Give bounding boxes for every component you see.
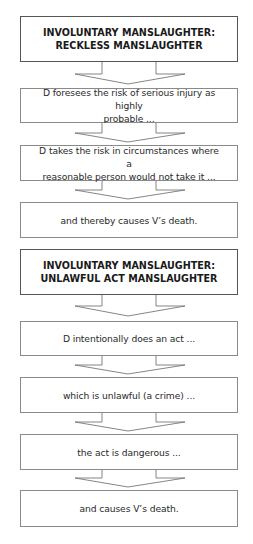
down-arrow-icon: [0, 470, 253, 490]
step-line: the act is dangerous ...: [69, 446, 188, 459]
down-arrow-icon: [0, 62, 253, 88]
step-line: D takes the risk in circumstances where …: [29, 144, 229, 170]
down-arrow-icon: [0, 295, 253, 321]
down-arrow-icon: [0, 123, 253, 145]
step-intentional-act: D intentionally does an act ...: [20, 321, 238, 356]
heading-line: INVOLUNTARY MANSLAUGHTER:: [33, 259, 226, 273]
down-arrow-icon: [0, 181, 253, 202]
heading-unlawful-act-manslaughter: INVOLUNTARY MANSLAUGHTER: UNLAWFUL ACT M…: [20, 249, 238, 295]
down-arrow-icon: [0, 356, 253, 377]
step-foresees-risk: D foresees the risk of serious injury as…: [20, 88, 238, 123]
step-causes-death: and thereby causes V’s death.: [20, 202, 238, 238]
step-line: and causes V’s death.: [71, 502, 186, 515]
heading-line: UNLAWFUL ACT MANSLAUGHTER: [33, 272, 226, 286]
heading-line: RECKLESS MANSLAUGHTER: [35, 39, 223, 53]
step-line: which is unlawful (a crime) ...: [55, 389, 203, 402]
step-dangerous: the act is dangerous ...: [20, 434, 238, 470]
step-line: and thereby causes V’s death.: [53, 214, 206, 227]
heading-line: INVOLUNTARY MANSLAUGHTER:: [35, 26, 223, 40]
step-unlawful: which is unlawful (a crime) ...: [20, 377, 238, 413]
step-line: D intentionally does an act ...: [55, 332, 203, 345]
step-causes-death-2: and causes V’s death.: [20, 490, 238, 527]
step-line: D foresees the risk of serious injury as…: [29, 86, 229, 112]
heading-reckless-manslaughter: INVOLUNTARY MANSLAUGHTER: RECKLESS MANSL…: [20, 16, 238, 62]
step-takes-risk: D takes the risk in circumstances where …: [20, 145, 238, 181]
down-arrow-icon: [0, 413, 253, 434]
